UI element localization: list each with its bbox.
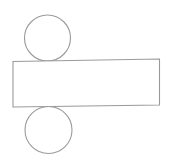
bottom-base-circle <box>25 107 72 154</box>
lateral-surface-rectangle <box>13 59 160 107</box>
top-base-circle <box>25 15 71 61</box>
cylinder-net-diagram <box>0 0 170 159</box>
